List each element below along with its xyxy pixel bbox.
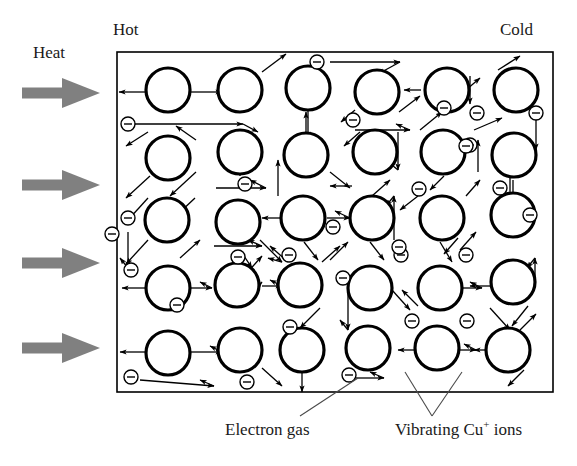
motion-arrow-44 xyxy=(126,240,148,264)
motion-arrow-9 xyxy=(399,96,420,112)
electron-28 xyxy=(282,248,296,262)
electron-7 xyxy=(124,263,138,277)
label-electron-gas: Electron gas xyxy=(225,420,310,440)
heat-arrow-head-3 xyxy=(62,248,100,278)
cu-ion-14 xyxy=(216,200,260,244)
cu-ion-16 xyxy=(350,196,394,240)
cu-ion-8 xyxy=(218,130,262,174)
electron-25 xyxy=(124,370,138,384)
motion-arrow-48 xyxy=(180,240,200,258)
motion-arrow-19 xyxy=(126,176,150,198)
electron-27 xyxy=(283,320,297,334)
electron-15 xyxy=(412,182,426,196)
heat-arrow-head-1 xyxy=(62,78,100,108)
motion-arrow-59 xyxy=(372,180,390,196)
cu-ion-6 xyxy=(494,68,538,112)
motion-arrow-100 xyxy=(520,314,536,330)
electron-13 xyxy=(346,113,360,127)
motion-arrow-95 xyxy=(370,372,384,378)
electron-3 xyxy=(437,101,451,115)
cu-ion-12 xyxy=(492,133,536,177)
cu-ion-13 xyxy=(145,198,189,242)
motion-arrow-77 xyxy=(340,320,348,330)
electron-6 xyxy=(121,211,135,225)
cu-ion-24 xyxy=(491,260,535,304)
diagram-canvas xyxy=(0,0,577,466)
electron-24 xyxy=(240,375,254,389)
motion-arrow-66 xyxy=(466,180,480,196)
motion-arrow-65 xyxy=(460,232,476,250)
cu-ion-26 xyxy=(218,328,262,372)
cu-ion-1 xyxy=(146,68,190,112)
electron-22 xyxy=(460,314,474,328)
electron-9 xyxy=(238,177,252,191)
motion-arrow-75 xyxy=(300,308,320,328)
heat-arrows xyxy=(22,78,100,363)
cu-ion-22 xyxy=(348,266,392,310)
label-cold: Cold xyxy=(500,20,533,40)
electron-20 xyxy=(523,208,537,222)
motion-arrow-62 xyxy=(370,242,384,260)
cu-ion-7 xyxy=(146,136,190,180)
motion-arrow-63 xyxy=(400,196,418,210)
motion-arrow-14 xyxy=(126,132,148,146)
cu-ion-11 xyxy=(421,130,465,174)
cu-ion-3 xyxy=(286,66,330,110)
cu-ion-23 xyxy=(418,266,462,310)
cu-ion-4 xyxy=(355,70,399,114)
cu-ion-2 xyxy=(218,68,262,112)
electron-17 xyxy=(405,314,419,328)
electron-2 xyxy=(310,55,324,69)
cu-ion-15 xyxy=(281,196,325,240)
label-vibrating-cu-ions: Vibrating Cu+ ions xyxy=(395,420,522,440)
electron-12 xyxy=(336,271,350,285)
motion-arrow-32 xyxy=(396,124,410,130)
cu-ion-10 xyxy=(353,130,397,174)
motion-arrow-58 xyxy=(330,242,348,260)
cu-ion-30 xyxy=(486,328,530,372)
electron-21 xyxy=(529,106,543,120)
cu-ion-9 xyxy=(284,133,328,177)
cu-ions-suffix: ions xyxy=(489,420,522,439)
electron-18 xyxy=(459,139,473,153)
motion-arrow-33 xyxy=(420,112,442,130)
electron-26 xyxy=(342,368,356,382)
electron-19 xyxy=(493,181,507,195)
motion-arrow-3 xyxy=(262,54,286,72)
thermal-conduction-diagram: Hot Cold Heat Electron gas Vibrating Cu+… xyxy=(0,0,577,466)
heat-arrow-head-4 xyxy=(62,333,100,363)
motion-arrow-81 xyxy=(470,282,482,288)
motion-arrow-34 xyxy=(430,176,444,190)
cu-ion-20 xyxy=(215,263,259,307)
cu-ion-28 xyxy=(346,326,390,370)
electron-10 xyxy=(170,298,184,312)
label-heat: Heat xyxy=(33,43,65,63)
motion-arrow-86 xyxy=(512,306,528,326)
motion-arrow-78 xyxy=(392,290,410,310)
cu-ion-21 xyxy=(278,263,322,307)
electron-5 xyxy=(231,250,245,264)
heat-arrow-shaft-3 xyxy=(22,258,62,269)
motion-arrow-71 xyxy=(200,282,212,288)
leader-line-electron-gas xyxy=(300,378,358,416)
electron-23 xyxy=(470,106,484,120)
leader-line-cu-ions-right xyxy=(432,372,462,416)
motion-arrow-55 xyxy=(335,211,350,218)
heat-arrow-shaft-4 xyxy=(22,343,62,354)
electron-11 xyxy=(326,220,340,234)
cu-ion-25 xyxy=(146,331,190,375)
label-hot: Hot xyxy=(113,20,139,40)
cu-ion-17 xyxy=(420,196,464,240)
heat-arrow-shaft-2 xyxy=(22,180,62,191)
leader-line-cu-ions-left xyxy=(405,372,432,416)
cu-ion-29 xyxy=(415,326,459,370)
heat-arrow-shaft-1 xyxy=(22,88,62,99)
heat-arrow-head-2 xyxy=(62,170,100,200)
electron-16 xyxy=(392,240,406,254)
motion-arrow-98 xyxy=(464,344,476,350)
electron-1 xyxy=(121,117,135,131)
motion-arrow-90 xyxy=(262,368,282,386)
motion-arrow-57 xyxy=(304,242,318,260)
electron-29 xyxy=(459,248,473,262)
cu-ions-prefix: Vibrating Cu xyxy=(395,420,483,439)
